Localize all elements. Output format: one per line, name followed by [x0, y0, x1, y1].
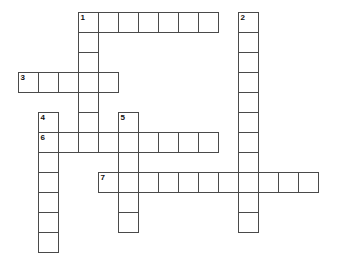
clue-number: 7: [101, 173, 105, 182]
cell-letter: [39, 213, 58, 232]
cell-letter: [99, 133, 118, 152]
crossword-cell[interactable]: [238, 112, 259, 133]
crossword-cell[interactable]: [158, 132, 179, 153]
crossword-cell[interactable]: [138, 172, 159, 193]
cell-letter: [279, 173, 298, 192]
crossword-cell[interactable]: [278, 172, 299, 193]
cell-letter: [239, 213, 258, 232]
cell-letter: [259, 173, 278, 192]
cell-letter: [119, 193, 138, 212]
crossword-cell[interactable]: [238, 192, 259, 213]
crossword-cell[interactable]: [78, 132, 99, 153]
crossword-cell[interactable]: [158, 172, 179, 193]
crossword-cell-numbered[interactable]: 2: [238, 12, 259, 33]
cell-letter: [119, 213, 138, 232]
crossword-cell[interactable]: [138, 12, 159, 33]
crossword-cell[interactable]: [78, 52, 99, 73]
crossword-cell[interactable]: [198, 172, 219, 193]
crossword-puzzle-grid: 1234567: [0, 0, 338, 257]
clue-number: 4: [41, 113, 45, 122]
crossword-cell[interactable]: [118, 192, 139, 213]
crossword-cell[interactable]: [258, 172, 279, 193]
cell-letter: [99, 13, 118, 32]
cell-letter: [179, 13, 198, 32]
crossword-cell[interactable]: [218, 172, 239, 193]
cell-letter: [79, 33, 98, 52]
crossword-cell[interactable]: [58, 132, 79, 153]
cell-letter: [199, 133, 218, 152]
crossword-cell[interactable]: [38, 232, 59, 253]
clue-number: 1: [81, 13, 85, 22]
crossword-cell[interactable]: [118, 212, 139, 233]
crossword-cell-numbered[interactable]: 4: [38, 112, 59, 133]
cell-letter: [159, 133, 178, 152]
crossword-cell[interactable]: [38, 72, 59, 93]
crossword-cell[interactable]: [38, 192, 59, 213]
crossword-cell[interactable]: [118, 12, 139, 33]
crossword-cell[interactable]: [118, 132, 139, 153]
crossword-cell[interactable]: [38, 152, 59, 173]
cell-letter: [239, 153, 258, 172]
crossword-cell[interactable]: [118, 152, 139, 173]
crossword-cell-numbered[interactable]: 3: [18, 72, 39, 93]
crossword-cell[interactable]: [238, 32, 259, 53]
clue-number: 6: [41, 133, 45, 142]
cell-letter: [59, 73, 78, 92]
cell-letter: [79, 113, 98, 132]
cell-letter: [79, 53, 98, 72]
cell-letter: [239, 53, 258, 72]
cell-letter: [239, 113, 258, 132]
crossword-cell[interactable]: [238, 172, 259, 193]
crossword-cell[interactable]: [118, 172, 139, 193]
cell-letter: [39, 193, 58, 212]
crossword-cell[interactable]: [238, 152, 259, 173]
crossword-cell-numbered[interactable]: 5: [118, 112, 139, 133]
cell-letter: [179, 173, 198, 192]
cell-letter: [39, 173, 58, 192]
cell-letter: [159, 173, 178, 192]
cell-letter: [119, 133, 138, 152]
cell-letter: [79, 93, 98, 112]
crossword-cell[interactable]: [158, 12, 179, 33]
cell-letter: [99, 73, 118, 92]
crossword-cell[interactable]: [178, 172, 199, 193]
crossword-cell-numbered[interactable]: 6: [38, 132, 59, 153]
cell-letter: [239, 33, 258, 52]
cell-letter: [119, 153, 138, 172]
crossword-cell-numbered[interactable]: 7: [98, 172, 119, 193]
cell-letter: [59, 133, 78, 152]
cell-letter: [219, 173, 238, 192]
cell-letter: [79, 73, 98, 92]
cell-letter: [119, 13, 138, 32]
crossword-cell[interactable]: [78, 92, 99, 113]
crossword-cell[interactable]: [98, 12, 119, 33]
crossword-cell[interactable]: [78, 72, 99, 93]
cell-letter: [239, 93, 258, 112]
crossword-cell[interactable]: [58, 72, 79, 93]
crossword-cell-numbered[interactable]: 1: [78, 12, 99, 33]
crossword-cell[interactable]: [138, 132, 159, 153]
crossword-cell[interactable]: [98, 72, 119, 93]
crossword-cell[interactable]: [238, 52, 259, 73]
crossword-cell[interactable]: [198, 12, 219, 33]
cell-letter: [299, 173, 318, 192]
cell-letter: [39, 233, 58, 252]
crossword-cell[interactable]: [78, 32, 99, 53]
crossword-cell[interactable]: [198, 132, 219, 153]
crossword-cell[interactable]: [178, 132, 199, 153]
cell-letter: [119, 173, 138, 192]
cell-letter: [199, 173, 218, 192]
crossword-cell[interactable]: [38, 172, 59, 193]
crossword-cell[interactable]: [238, 132, 259, 153]
crossword-cell[interactable]: [298, 172, 319, 193]
clue-number: 3: [21, 73, 25, 82]
crossword-cell[interactable]: [238, 212, 259, 233]
crossword-cell[interactable]: [178, 12, 199, 33]
crossword-cell[interactable]: [98, 132, 119, 153]
crossword-cell[interactable]: [78, 112, 99, 133]
crossword-cell[interactable]: [238, 92, 259, 113]
cell-letter: [179, 133, 198, 152]
cell-letter: [159, 13, 178, 32]
crossword-cell[interactable]: [238, 72, 259, 93]
crossword-cell[interactable]: [38, 212, 59, 233]
